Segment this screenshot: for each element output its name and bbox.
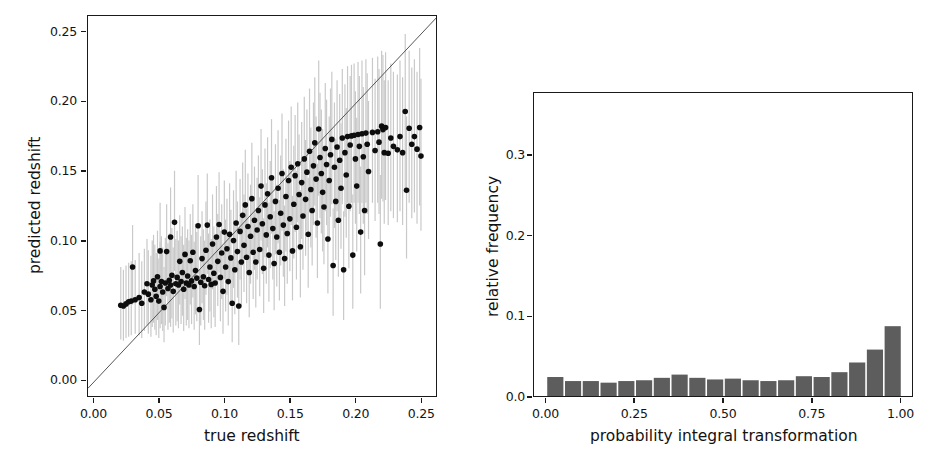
scatter-graphic [88, 16, 437, 397]
histogram-bar [565, 381, 581, 397]
scatter-x-tick-mark [93, 398, 95, 403]
scatter-x-tick-mark [158, 398, 160, 403]
histogram-x-tick-label: 0.75 [782, 406, 842, 421]
histogram-y-tick-mark [527, 396, 532, 398]
histogram-x-tick-mark [900, 398, 902, 403]
histogram-bar [618, 381, 634, 397]
histogram-bar [707, 379, 723, 397]
histogram-bar [725, 379, 741, 397]
scatter-x-tick-mark [421, 398, 423, 403]
scatter-panel: 0.000.050.100.150.200.25 0.000.050.100.1… [0, 0, 470, 459]
scatter-y-tick-mark [81, 31, 86, 33]
histogram-bar [583, 381, 599, 397]
histogram-x-tick-label: 1.00 [871, 406, 931, 421]
histogram-y-tick-label: 0.0 [485, 389, 525, 404]
figure-root: 0.000.050.100.150.200.25 0.000.050.100.1… [0, 0, 951, 459]
histogram-bar [760, 381, 776, 397]
histogram-x-tick-mark [633, 398, 635, 403]
histogram-graphic [534, 93, 913, 397]
histogram-bar [672, 375, 688, 397]
histogram-x-tick-label: 0.00 [515, 406, 575, 421]
scatter-x-tick-label: 0.20 [326, 406, 386, 421]
scatter-x-tick-mark [289, 398, 291, 403]
scatter-y-tick-label: 0.00 [31, 372, 77, 387]
histogram-y-tick-mark [527, 316, 532, 318]
histogram-bars-group [547, 326, 901, 397]
scatter-y-tick-mark [81, 101, 86, 103]
scatter-x-axis-title: true redshift [204, 427, 300, 445]
histogram-bar [778, 380, 794, 397]
histogram-y-tick-mark [527, 154, 532, 156]
histogram-bar [867, 350, 883, 397]
histogram-bar [849, 363, 865, 398]
histogram-bar [689, 378, 705, 397]
scatter-x-tick-mark [224, 398, 226, 403]
histogram-bar [796, 376, 812, 397]
scatter-y-axis-title: predicted redshift [26, 137, 44, 274]
scatter-x-tick-label: 0.00 [64, 406, 124, 421]
scatter-y-tick-label: 0.20 [31, 93, 77, 108]
histogram-bar [885, 326, 901, 397]
histogram-y-tick-mark [527, 235, 532, 237]
histogram-bar [654, 378, 670, 397]
scatter-x-tick-label: 0.15 [260, 406, 320, 421]
histogram-plot-area [533, 92, 913, 397]
scatter-x-tick-label: 0.10 [195, 406, 255, 421]
histogram-x-tick-label: 0.25 [604, 406, 664, 421]
error-bars-group [121, 34, 421, 345]
histogram-x-axis-title: probability integral transformation [590, 427, 858, 445]
histogram-bar [636, 380, 652, 397]
scatter-y-tick-mark [81, 170, 86, 172]
scatter-plot-area [87, 15, 437, 397]
scatter-y-tick-mark [81, 380, 86, 382]
histogram-panel: 0.00.10.20.3 0.000.250.500.751.00 probab… [470, 0, 951, 459]
histogram-y-axis-title: relative frequency [484, 175, 502, 316]
scatter-y-tick-mark [81, 240, 86, 242]
scatter-y-tick-label: 0.05 [31, 303, 77, 318]
histogram-bar [831, 372, 847, 397]
histogram-x-tick-label: 0.50 [693, 406, 753, 421]
histogram-x-tick-mark [545, 398, 547, 403]
scatter-x-tick-label: 0.05 [129, 406, 189, 421]
histogram-x-tick-mark [722, 398, 724, 403]
histogram-bar [814, 377, 830, 397]
histogram-bar [547, 377, 563, 397]
scatter-x-tick-label: 0.25 [391, 406, 451, 421]
histogram-bar [743, 380, 759, 397]
scatter-y-tick-mark [81, 310, 86, 312]
scatter-x-tick-mark [355, 398, 357, 403]
histogram-x-tick-mark [811, 398, 813, 403]
scatter-y-tick-label: 0.25 [31, 24, 77, 39]
histogram-bar [601, 383, 617, 397]
histogram-y-tick-label: 0.3 [485, 147, 525, 162]
